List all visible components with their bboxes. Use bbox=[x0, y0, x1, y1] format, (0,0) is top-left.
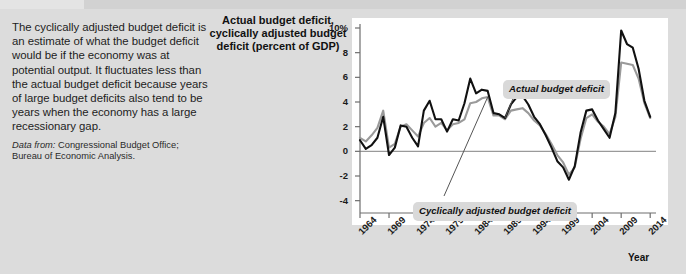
annotation-cyclically-adjusted: Cyclically adjusted budget deficit bbox=[413, 202, 577, 221]
y-tick-label: 8 bbox=[318, 47, 348, 58]
series-line-actual bbox=[360, 30, 650, 179]
leader-line-actual bbox=[505, 96, 514, 118]
y-axis-tick-labels: 10%86420-2-4 bbox=[312, 12, 348, 225]
x-axis-title: Year bbox=[628, 252, 649, 263]
chart-block: Actual budget deficit, cyclically adjust… bbox=[208, 12, 678, 270]
top-strip bbox=[0, 0, 686, 9]
annotation-actual-budget-deficit: Actual budget deficit bbox=[503, 80, 610, 99]
figure-container: The cyclically adjusted budget deficit i… bbox=[0, 0, 686, 274]
leader-line-cyclical bbox=[444, 97, 488, 196]
plot-svg bbox=[352, 18, 668, 225]
y-tick-label: 10% bbox=[318, 22, 348, 33]
y-tick-label: 2 bbox=[318, 121, 348, 132]
source-label: Data from: bbox=[12, 140, 55, 150]
explanatory-body-text: The cyclically adjusted budget deficit i… bbox=[12, 20, 208, 134]
source-note: Data from: Congressional Budget Office; … bbox=[12, 140, 208, 163]
annotation-cyclical-line1: Cyclically adjusted budget deficit bbox=[419, 205, 571, 216]
annotation-actual-line1: Actual budget deficit bbox=[509, 83, 604, 94]
y-tick-label: 4 bbox=[318, 96, 348, 107]
y-tick-label: -4 bbox=[318, 195, 348, 206]
y-tick-label: 6 bbox=[318, 71, 348, 82]
plot-area bbox=[352, 18, 668, 225]
corner-notch bbox=[0, 0, 84, 9]
explanatory-text-panel: The cyclically adjusted budget deficit i… bbox=[12, 20, 208, 162]
y-tick-label: -2 bbox=[318, 170, 348, 181]
axis-ticks bbox=[355, 28, 650, 218]
y-tick-label: 0 bbox=[318, 145, 348, 156]
